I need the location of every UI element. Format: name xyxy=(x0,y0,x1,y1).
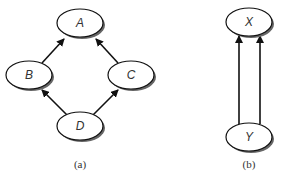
node-c: C xyxy=(108,61,156,91)
node-c-label: C xyxy=(127,68,136,82)
edge-d-to-b xyxy=(42,90,67,115)
diagram-canvas: A B C D X Y (a) (b) xyxy=(0,0,285,178)
node-d-label: D xyxy=(76,119,85,133)
panel-b-edges xyxy=(239,36,260,124)
node-x: X xyxy=(226,8,274,38)
node-a: A xyxy=(57,9,105,39)
edge-d-to-c xyxy=(93,90,118,115)
node-y: Y xyxy=(226,123,274,153)
edge-b-to-a xyxy=(42,39,64,63)
node-y-label: Y xyxy=(245,130,254,144)
caption-b: (b) xyxy=(243,158,256,171)
edge-c-to-a xyxy=(96,39,118,63)
node-x-label: X xyxy=(244,15,254,29)
node-a-label: A xyxy=(75,16,84,30)
caption-a: (a) xyxy=(74,158,87,171)
node-d: D xyxy=(57,112,105,142)
node-b-label: B xyxy=(25,68,33,82)
node-b: B xyxy=(6,61,54,91)
